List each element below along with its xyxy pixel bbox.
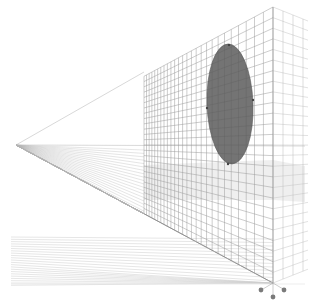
- handle-bottom-icon[interactable]: [271, 295, 276, 300]
- perspective-grid-canvas[interactable]: [0, 0, 323, 306]
- ellipse-handle-top[interactable]: [228, 44, 230, 46]
- handle-left-icon[interactable]: [259, 288, 264, 293]
- ellipse-handle-left[interactable]: [206, 107, 208, 109]
- handle-right-icon[interactable]: [282, 288, 287, 293]
- ellipse-handle-right[interactable]: [252, 99, 254, 101]
- ellipse-handle-bottom[interactable]: [227, 163, 229, 165]
